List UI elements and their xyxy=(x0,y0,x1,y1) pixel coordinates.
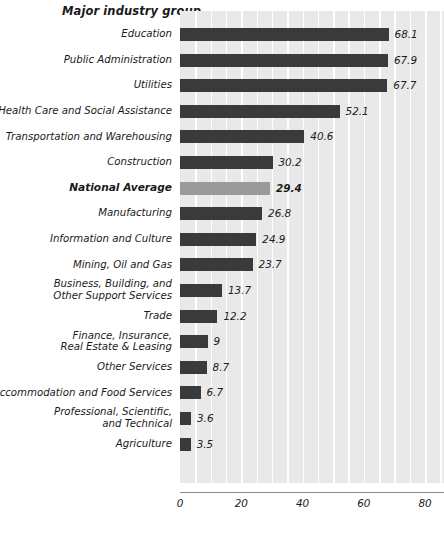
x-axis-line xyxy=(180,492,444,493)
bar[interactable] xyxy=(180,335,208,348)
bar[interactable] xyxy=(180,156,273,169)
bar-value-label: 52.1 xyxy=(346,105,369,118)
bar-value-label: 67.7 xyxy=(393,79,416,92)
bar-category-label: Mining, Oil and Gas xyxy=(0,259,172,271)
bar[interactable] xyxy=(180,310,217,323)
bar[interactable] xyxy=(180,207,262,220)
bar-row: Education68.1 xyxy=(0,28,444,52)
bar-row: Finance, Insurance, Real Estate & Leasin… xyxy=(0,335,444,359)
bar-category-label: National Average xyxy=(0,182,172,194)
bar-row: Information and Culture24.9 xyxy=(0,233,444,257)
bar-value-label: 68.1 xyxy=(395,28,418,41)
bar-category-label: Finance, Insurance, Real Estate & Leasin… xyxy=(0,330,172,353)
bar[interactable] xyxy=(180,105,340,118)
bar[interactable] xyxy=(180,361,207,374)
bar-value-label: 29.4 xyxy=(276,182,302,195)
bar-category-label: Accommodation and Food Services xyxy=(0,387,172,399)
bar-row: Other Services8.7 xyxy=(0,361,444,385)
bar-value-label: 24.9 xyxy=(262,233,285,246)
bar-value-label: 9 xyxy=(214,335,221,348)
bar-row: Business, Building, and Other Support Se… xyxy=(0,284,444,308)
bar-value-label: 26.8 xyxy=(268,207,291,220)
bar-value-label: 8.7 xyxy=(213,361,230,374)
bar-chart: Major industry group Education68.1Public… xyxy=(0,0,444,533)
bar-category-label: Agriculture xyxy=(0,438,172,450)
bar[interactable] xyxy=(180,79,387,92)
bar-category-label: Public Administration xyxy=(0,54,172,66)
x-tick-label: 80 xyxy=(418,497,431,509)
x-axis-ticks: 020406080 xyxy=(0,497,444,517)
bar-row: Health Care and Social Assistance52.1 xyxy=(0,105,444,129)
bar-category-label: Manufacturing xyxy=(0,207,172,219)
bar[interactable] xyxy=(180,284,222,297)
bar-row: Professional, Scientific, and Technical3… xyxy=(0,412,444,436)
bar-category-label: Education xyxy=(0,28,172,40)
bar-category-label: Transportation and Warehousing xyxy=(0,131,172,143)
bar[interactable] xyxy=(180,233,256,246)
bar-row: Public Administration67.9 xyxy=(0,54,444,78)
x-tick-label: 60 xyxy=(357,497,370,509)
bar[interactable] xyxy=(180,130,304,143)
bar-category-label: Health Care and Social Assistance xyxy=(0,105,172,117)
bar-value-label: 12.2 xyxy=(223,310,246,323)
x-tick-label: 20 xyxy=(235,497,248,509)
bar[interactable] xyxy=(180,258,253,271)
bar[interactable] xyxy=(180,438,191,451)
bar-value-label: 23.7 xyxy=(259,258,282,271)
x-tick-label: 40 xyxy=(296,497,309,509)
bar-value-label: 3.5 xyxy=(197,438,214,451)
bar-value-label: 30.2 xyxy=(279,156,302,169)
bar-row: Utilities67.7 xyxy=(0,79,444,103)
bar[interactable] xyxy=(180,182,270,195)
bar[interactable] xyxy=(180,412,191,425)
bar-value-label: 67.9 xyxy=(394,54,417,67)
bar[interactable] xyxy=(180,28,389,41)
bar-category-label: Professional, Scientific, and Technical xyxy=(0,406,172,429)
bar-category-label: Information and Culture xyxy=(0,233,172,245)
bar-value-label: 3.6 xyxy=(197,412,214,425)
bar-row: Transportation and Warehousing40.6 xyxy=(0,130,444,154)
bar-category-label: Other Services xyxy=(0,361,172,373)
bar-category-label: Trade xyxy=(0,310,172,322)
bar-category-label: Utilities xyxy=(0,79,172,91)
bar-category-label: Construction xyxy=(0,156,172,168)
bar[interactable] xyxy=(180,386,201,399)
bar[interactable] xyxy=(180,54,388,67)
bar-value-label: 40.6 xyxy=(310,130,333,143)
bar-value-label: 6.7 xyxy=(207,386,224,399)
x-tick-label: 0 xyxy=(177,497,184,509)
bar-row: National Average29.4 xyxy=(0,182,444,206)
bar-value-label: 13.7 xyxy=(228,284,251,297)
bar-rows: Education68.1Public Administration67.9Ut… xyxy=(0,0,444,533)
bar-row: Construction30.2 xyxy=(0,156,444,180)
bar-row: Agriculture3.5 xyxy=(0,438,444,462)
bar-category-label: Business, Building, and Other Support Se… xyxy=(0,278,172,301)
bar-row: Manufacturing26.8 xyxy=(0,207,444,231)
